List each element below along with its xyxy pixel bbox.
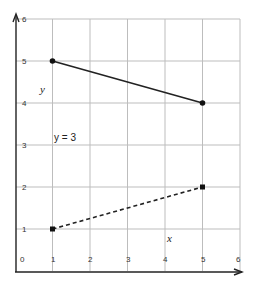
y-tick-6: 6 (22, 15, 27, 24)
x-tick-4: 4 (163, 255, 168, 264)
point-1-1 (50, 227, 55, 232)
annotation-y-equals-3: y = 3 (54, 132, 76, 143)
x-tick-5: 5 (201, 255, 206, 264)
point-5-2 (200, 185, 205, 190)
y-tick-3: 3 (22, 141, 27, 150)
x-ticks: 0 1 2 3 4 5 6 (20, 255, 241, 264)
y-axis-label: y (39, 83, 45, 95)
x-tick-0: 0 (20, 255, 25, 264)
y-tick-2: 2 (22, 183, 27, 192)
coordinate-plane: 6 5 4 3 2 1 0 1 2 3 4 5 6 y x y = 3 (0, 0, 253, 285)
grid (16, 19, 240, 271)
x-axis-label: x (166, 232, 172, 244)
x-tick-2: 2 (88, 255, 93, 264)
y-tick-1: 1 (22, 225, 27, 234)
x-tick-1: 1 (51, 255, 56, 264)
y-tick-5: 5 (22, 57, 27, 66)
point-5-4 (200, 100, 206, 106)
y-ticks: 6 5 4 3 2 1 (22, 15, 27, 234)
x-tick-3: 3 (126, 255, 131, 264)
y-tick-4: 4 (22, 99, 27, 108)
x-tick-6: 6 (236, 255, 241, 264)
point-1-5 (50, 58, 56, 64)
